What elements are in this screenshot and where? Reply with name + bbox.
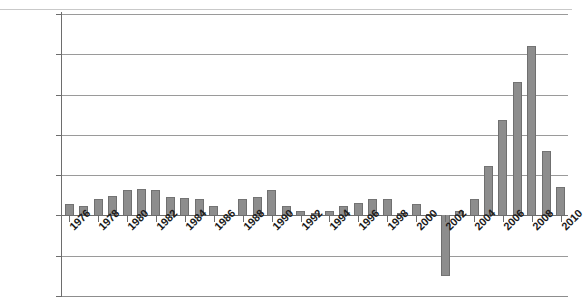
bar-1978 bbox=[94, 199, 103, 215]
gridline--100000 bbox=[62, 296, 568, 297]
gridline-100000 bbox=[62, 135, 568, 136]
bar-2000 bbox=[412, 204, 421, 215]
bar-2010 bbox=[556, 187, 565, 215]
bar-1988 bbox=[238, 199, 247, 216]
gridline-200000 bbox=[62, 54, 568, 55]
bar-2007 bbox=[513, 82, 522, 216]
gridline-250000 bbox=[62, 14, 568, 15]
bar-2008 bbox=[527, 46, 536, 215]
bar-1998 bbox=[383, 199, 392, 216]
gridline--50000 bbox=[62, 256, 568, 257]
cropped-title-remnant bbox=[0, 0, 572, 9]
bar-1996 bbox=[354, 203, 363, 216]
plot-area bbox=[62, 14, 568, 296]
bar-2006 bbox=[498, 120, 507, 215]
bar-1986 bbox=[209, 206, 218, 216]
bar-1982 bbox=[151, 190, 160, 215]
top-rule bbox=[0, 9, 572, 10]
bar-1990 bbox=[267, 190, 276, 216]
bar-1984 bbox=[180, 198, 189, 216]
bar-1980 bbox=[123, 190, 132, 215]
bar-1976 bbox=[65, 204, 74, 215]
gridline-150000 bbox=[62, 95, 568, 96]
bar-2004 bbox=[470, 199, 479, 215]
